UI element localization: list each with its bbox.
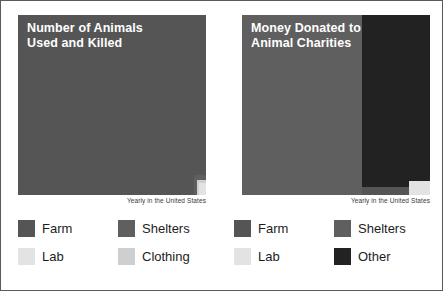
legend-swatch-lab-icon [234, 248, 251, 265]
legend-left: Farm Shelters Lab Clothing [18, 220, 214, 278]
legend-swatch-shelters-icon [118, 220, 135, 237]
legend-label-farm: Farm [42, 222, 72, 235]
legend-swatch-clothing-icon [118, 248, 135, 265]
legend-label-other: Other [358, 250, 391, 263]
legend-swatch-farm-icon [234, 220, 251, 237]
legend-swatch-farm-icon [18, 220, 35, 237]
chart-title-left: Number of Animals Used and Killed [27, 21, 197, 51]
chart-title-right: Money Donated to Animal Charities [251, 21, 421, 51]
treemap-tile-lab[interactable] [199, 183, 206, 195]
legend-label-clothing: Clothing [142, 250, 190, 263]
legend-item-lab[interactable]: Lab [18, 248, 64, 265]
figure-panels: Number of Animals Used and Killed Yearly… [1, 1, 443, 291]
treemap-tile-lab[interactable] [409, 181, 430, 195]
legend-item-farm[interactable]: Farm [234, 220, 288, 237]
treemap-tile-farm[interactable] [362, 187, 409, 195]
legend-item-farm[interactable]: Farm [18, 220, 72, 237]
legend-item-shelters[interactable]: Shelters [334, 220, 406, 237]
legend-label-farm: Farm [258, 222, 288, 235]
legend-label-lab: Lab [258, 250, 280, 263]
legend-label-shelters: Shelters [358, 222, 406, 235]
legend-label-lab: Lab [42, 250, 64, 263]
chart-caption-right: Yearly in the United States [242, 197, 430, 204]
legend-swatch-other-icon [334, 248, 351, 265]
chart-panel-right: Money Donated to Animal Charities Yearly… [222, 1, 443, 291]
legend-right: Farm Shelters Lab Other [234, 220, 430, 278]
legend-item-clothing[interactable]: Clothing [118, 248, 190, 265]
legend-item-other[interactable]: Other [334, 248, 391, 265]
legend-item-shelters[interactable]: Shelters [118, 220, 190, 237]
legend-item-lab[interactable]: Lab [234, 248, 280, 265]
legend-swatch-shelters-icon [334, 220, 351, 237]
legend-label-shelters: Shelters [142, 222, 190, 235]
treemap-left: Number of Animals Used and Killed [18, 15, 206, 195]
treemap-right: Money Donated to Animal Charities [242, 15, 430, 195]
figure-frame: Number of Animals Used and Killed Yearly… [0, 0, 443, 291]
chart-panel-left: Number of Animals Used and Killed Yearly… [1, 1, 222, 291]
chart-caption-left: Yearly in the United States [18, 197, 206, 204]
legend-swatch-lab-icon [18, 248, 35, 265]
